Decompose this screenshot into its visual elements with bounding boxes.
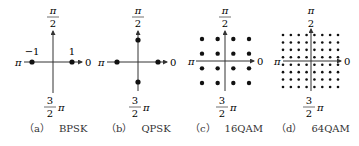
constellation-point [329,41,332,44]
label-bottom-pi: π [57,102,65,113]
constellation-point [305,78,308,81]
constellation-point [329,71,332,74]
label-top-numerator: π [134,5,142,16]
constellation-point [297,49,300,52]
caption-64qam: （d）64QAM [276,120,350,135]
constellation-point [321,56,324,59]
label-top-denominator: 2 [135,18,141,29]
constellation-point [329,63,332,66]
caption-qpsk: （b）QPSK [106,120,171,135]
constellation-point [329,34,332,37]
constellation-point [282,49,285,52]
constellation-point [313,49,316,52]
constellation-point [297,41,300,44]
constellation-point [305,41,308,44]
constellation-point [247,81,251,85]
constellation-point [305,63,308,66]
constellation-point [231,81,235,85]
constellation-point [313,41,316,44]
label-bottom-numerator: 3 [132,95,138,106]
constellation-point [305,49,308,52]
label-right: 0 [257,56,263,67]
constellation-point [313,56,316,59]
point-label-pos1: 1 [69,46,75,57]
constellation-point [297,71,300,74]
caption-label: （b） [106,123,132,134]
label-left: π [97,57,105,68]
constellation-point [337,71,340,74]
constellation-point [200,66,204,70]
label-top-denominator: 2 [222,18,228,29]
label-right: 0 [170,57,176,68]
constellation-point [135,79,140,84]
constellation-point [321,78,324,81]
constellation-point [337,34,340,37]
constellation-point [290,34,293,37]
constellation-point [337,56,340,59]
constellation-point [337,41,340,44]
constellation-point [290,49,293,52]
label-bottom-denominator: 2 [219,108,225,119]
panel-16qam: π 2 π 0 3 2 π [187,5,263,119]
label-bottom-denominator: 2 [47,108,53,119]
constellation-point [321,49,324,52]
constellation-point [247,66,251,70]
constellation-point [215,51,219,55]
label-bottom-numerator: 3 [219,95,225,106]
label-bottom-pi: π [316,102,324,113]
caption-title: 16QAM [225,123,263,134]
constellation-point [215,81,219,85]
label-top-numerator: π [49,5,57,16]
label-left: π [187,56,195,67]
caption-16qam: （c）16QAM [190,120,263,135]
caption-title: BPSK [59,123,87,134]
constellation-point [247,37,251,41]
label-right: 0 [85,57,91,68]
constellation-point [329,49,332,52]
constellation-point [282,41,285,44]
label-left: π [273,56,281,67]
constellation-point [313,78,316,81]
constellation-point [321,63,324,66]
constellation-point [297,78,300,81]
constellation-point [282,56,285,59]
constellation-point [247,51,251,55]
constellation-point [231,51,235,55]
panel-64qam: π 2 π 0 3 2 π [273,5,350,119]
label-top-denominator: 2 [50,18,56,29]
constellation-point [329,78,332,81]
constellation-point [337,78,340,81]
label-right: 0 [344,56,350,67]
constellation-point [282,71,285,74]
panel-bpsk: π 2 π 0 −1 1 3 2 π [14,5,91,119]
label-bottom-denominator: 2 [306,108,312,119]
constellation-point [313,71,316,74]
constellation-point [321,71,324,74]
label-bottom-pi: π [229,102,237,113]
constellation-point [114,59,119,64]
constellation-point [321,34,324,37]
constellation-point [297,86,300,89]
constellation-point [282,78,285,81]
constellation-point [155,59,160,64]
label-top-denominator: 2 [308,18,314,29]
constellation-point [215,37,219,41]
constellation-point [313,63,316,66]
constellation-point [305,34,308,37]
constellation-point [231,37,235,41]
caption-title: 64QAM [311,123,349,134]
constellation-point [231,66,235,70]
constellation-point [305,86,308,89]
label-left: π [14,57,22,68]
constellation-point [135,37,140,42]
constellation-point [321,86,324,89]
caption-bpsk: （a）BPSK [24,120,87,135]
constellation-point [329,86,332,89]
panel-qpsk: π 2 π 0 3 2 π [97,5,176,119]
constellation-point [297,63,300,66]
constellation-point [305,56,308,59]
caption-label: （c） [190,123,216,134]
constellation-point [29,59,34,64]
constellation-point [200,81,204,85]
caption-title: QPSK [141,123,170,134]
